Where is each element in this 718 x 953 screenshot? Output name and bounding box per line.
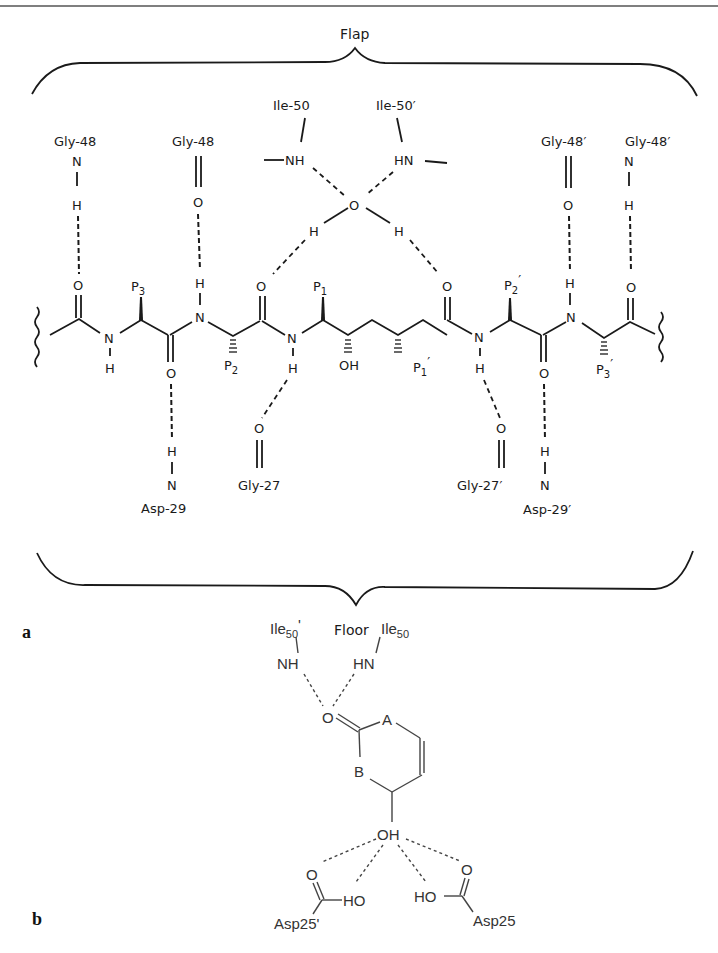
floor-brace xyxy=(37,551,693,605)
wavy-terminus-left xyxy=(35,307,39,367)
atom-h: H xyxy=(624,198,634,213)
side-chain-p1p: P1′ xyxy=(413,354,430,378)
atom-hn: HN xyxy=(353,655,375,672)
flap-label: Flap xyxy=(340,26,370,42)
asp25-carbonyl-o: O xyxy=(461,861,473,878)
side-chain-p1: P1 xyxy=(313,279,327,297)
panel-a: Flap Floor a Gly-48 N H Gly-48 O H Ile-5… xyxy=(22,26,697,642)
figure-canvas: Flap Floor a Gly-48 N H Gly-48 O H Ile-5… xyxy=(0,0,718,953)
atom-n: N xyxy=(195,310,205,325)
gly48p-center-right-label: Gly-48′ xyxy=(541,134,586,149)
ile50-label: Ile50 xyxy=(381,620,409,640)
gly48-left-label: Gly-48 xyxy=(54,134,96,149)
atom-o: O xyxy=(73,278,83,293)
atom-o: O xyxy=(626,280,636,295)
ile50p-label: Ile-50′ xyxy=(376,98,416,113)
atom-n: N xyxy=(104,331,114,346)
atom-n: N xyxy=(287,331,297,346)
panel-a-label: a xyxy=(22,622,31,642)
asp25-label: Asp25 xyxy=(473,912,516,929)
atom-o: O xyxy=(539,366,549,381)
gly48p-right-label: Gly-48′ xyxy=(625,134,670,149)
floor-label: Floor xyxy=(334,622,369,638)
hashed-bond-oh xyxy=(344,340,352,352)
ile50-label: Ile-50 xyxy=(273,98,310,113)
flap-brace xyxy=(32,48,697,96)
atom-h: H xyxy=(288,361,298,376)
atom-h: H xyxy=(565,276,575,291)
atom-n: N xyxy=(72,154,82,169)
hydroxyl-oh: OH xyxy=(339,358,359,373)
atom-h: H xyxy=(540,444,550,459)
side-chain-p3: P3 xyxy=(131,279,145,297)
gly48-center-left-label: Gly-48 xyxy=(172,134,214,149)
panel-b-label: b xyxy=(32,909,42,929)
ring-atom-a: A xyxy=(382,711,392,728)
atom-o: O xyxy=(496,421,506,436)
atom-o: O xyxy=(563,198,573,213)
atom-hn: HN xyxy=(394,153,414,168)
atom-o: O xyxy=(166,366,176,381)
atom-o: O xyxy=(254,421,264,436)
atom-nh: NH xyxy=(285,153,305,168)
asp25p-carbonyl-o: O xyxy=(306,866,318,883)
side-chain-p2: P2 xyxy=(224,358,238,376)
asp29p-label: Asp-29′ xyxy=(523,502,571,517)
atom-o: O xyxy=(193,195,203,210)
asp25-hydroxyl: HO xyxy=(414,888,437,905)
gly27-label: Gly-27 xyxy=(238,478,280,493)
atom-n: N xyxy=(167,478,177,493)
atom-o: O xyxy=(256,279,266,294)
atom-h: H xyxy=(167,444,177,459)
atom-h: H xyxy=(195,276,205,291)
atom-nh: NH xyxy=(277,655,299,672)
asp25p-hydroxyl: HO xyxy=(343,892,366,909)
water-h-left: H xyxy=(309,224,319,239)
water-o: O xyxy=(349,198,359,213)
ring-atom-b: B xyxy=(354,763,364,780)
asp29-label: Asp-29 xyxy=(141,501,186,516)
gly27p-label: Gly-27′ xyxy=(457,478,502,493)
atom-h: H xyxy=(72,198,82,213)
side-chain-p2p: P2′ xyxy=(504,272,521,296)
wavy-terminus-right xyxy=(659,312,663,362)
atom-n: N xyxy=(566,310,576,325)
asp25p-label: Asp25' xyxy=(274,915,320,932)
hashed-bond-p1p xyxy=(394,340,402,352)
atom-n: N xyxy=(474,330,484,345)
atom-o: O xyxy=(442,279,452,294)
atom-n: N xyxy=(624,154,634,169)
carbonyl-o: O xyxy=(322,709,334,726)
atom-n: N xyxy=(540,478,550,493)
side-chain-p3p: P3′ xyxy=(596,356,613,380)
hashed-bond-p2 xyxy=(229,340,237,352)
atom-h: H xyxy=(105,361,115,376)
panel-b: b Ile50' Ile50 NH HN O A B OH O HO Asp25… xyxy=(32,616,516,932)
ile50p-label: Ile50' xyxy=(270,616,301,640)
hydroxyl-oh: OH xyxy=(377,826,400,843)
atom-h: H xyxy=(475,361,485,376)
water-h-right: H xyxy=(394,224,404,239)
hashed-bond-p3p xyxy=(600,342,608,354)
